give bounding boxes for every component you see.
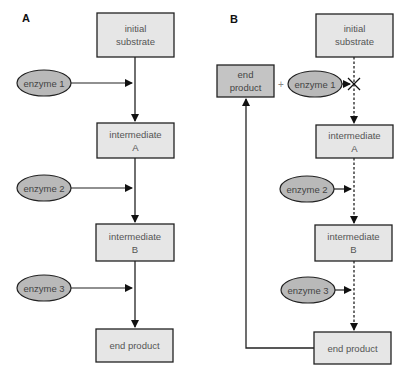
feedback-arrow <box>246 99 314 348</box>
panel-b-label: B <box>230 13 238 25</box>
svg-text:B: B <box>132 244 138 255</box>
plus-sign: + <box>278 79 284 90</box>
node-initial-substrate: initial substrate <box>97 13 174 57</box>
svg-text:product: product <box>230 82 262 93</box>
svg-text:intermediate: intermediate <box>109 129 161 140</box>
feedback-inhibition-diagram: A initial substrate enzyme 1 intermediat… <box>0 0 398 379</box>
svg-text:enzyme 3: enzyme 3 <box>23 283 64 294</box>
panel-a: A initial substrate enzyme 1 intermediat… <box>17 12 174 362</box>
enzyme-1-inhibited: enzyme 1 <box>288 71 360 97</box>
panel-a-label: A <box>22 12 30 24</box>
svg-text:intermediate: intermediate <box>327 231 379 242</box>
node-end-product: end product <box>96 329 173 362</box>
node-intermediate-b: intermediate B <box>96 224 174 261</box>
svg-text:initial: initial <box>344 23 366 34</box>
svg-text:enzyme 3: enzyme 3 <box>287 285 328 296</box>
node-intermediate-a: intermediate A <box>97 123 174 158</box>
node-initial-substrate-b: initial substrate <box>316 14 393 57</box>
node-intermediate-b-b: intermediate B <box>315 225 392 261</box>
svg-text:A: A <box>132 142 139 153</box>
svg-text:enzyme 2: enzyme 2 <box>286 184 327 195</box>
enzyme-1: enzyme 1 <box>17 70 132 96</box>
svg-text:end product: end product <box>327 343 378 354</box>
svg-text:intermediate: intermediate <box>328 130 380 141</box>
svg-text:enzyme 1: enzyme 1 <box>294 79 335 90</box>
svg-text:B: B <box>350 244 356 255</box>
node-intermediate-a-b: intermediate A <box>316 125 393 158</box>
svg-text:enzyme 2: enzyme 2 <box>23 183 64 194</box>
svg-text:substrate: substrate <box>116 36 155 47</box>
svg-text:end product: end product <box>109 340 160 351</box>
enzyme-2-b: enzyme 2 <box>280 176 351 202</box>
enzyme-3-b: enzyme 3 <box>281 277 351 303</box>
svg-text:substrate: substrate <box>335 36 374 47</box>
svg-text:intermediate: intermediate <box>109 231 161 242</box>
svg-text:A: A <box>351 143 358 154</box>
enzyme-3: enzyme 3 <box>17 275 132 301</box>
svg-text:enzyme 1: enzyme 1 <box>23 78 64 89</box>
svg-text:initial: initial <box>125 23 147 34</box>
node-end-product-b: end product <box>314 332 391 364</box>
enzyme-2: enzyme 2 <box>17 175 132 201</box>
svg-text:end: end <box>238 69 254 80</box>
panel-b: B initial substrate end product + enzyme… <box>217 13 393 364</box>
node-end-product-inhibitor: end product <box>217 65 274 97</box>
